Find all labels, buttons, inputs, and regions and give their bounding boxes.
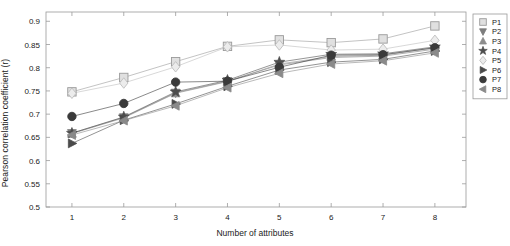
marker-circle [480, 76, 487, 83]
legend-label: P8 [492, 85, 501, 94]
marker-square [379, 35, 387, 43]
legend: P1P2P3P4P5P6P7P8 [473, 14, 507, 99]
y-tick-label: 0.7 [29, 110, 41, 119]
x-tick-label: 1 [70, 213, 75, 222]
y-tick-label: 0.55 [24, 180, 40, 189]
marker-circle [68, 112, 76, 120]
marker-square [480, 19, 487, 26]
marker-circle [120, 99, 128, 107]
y-tick-label: 0.6 [29, 157, 41, 166]
y-tick-label: 0.8 [29, 64, 41, 73]
x-axis-label: Number of attributes [45, 228, 465, 238]
plot-area: 0.50.550.60.650.70.750.80.850.912345678P… [0, 0, 510, 246]
x-tick-label: 2 [122, 213, 127, 222]
y-tick-label: 0.5 [29, 203, 41, 212]
legend-label: P6 [492, 66, 501, 75]
chart-figure: Pearson correlation coefficient (r) Numb… [0, 0, 510, 246]
x-tick-label: 5 [277, 213, 282, 222]
y-tick-label: 0.85 [24, 41, 40, 50]
x-tick-label: 8 [433, 213, 438, 222]
x-tick-label: 4 [225, 213, 230, 222]
legend-label: P3 [492, 37, 501, 46]
legend-label: P2 [492, 27, 501, 36]
legend-label: P5 [492, 56, 501, 65]
legend-box [473, 14, 507, 99]
legend-label: P4 [492, 47, 501, 56]
x-tick-label: 7 [381, 213, 386, 222]
legend-label: P7 [492, 75, 501, 84]
y-tick-label: 0.9 [29, 17, 41, 26]
marker-circle [171, 78, 179, 86]
plot-frame [46, 12, 466, 207]
x-tick-label: 6 [329, 213, 334, 222]
x-tick-label: 3 [173, 213, 178, 222]
legend-label: P1 [492, 18, 501, 27]
marker-square [431, 22, 439, 30]
y-tick-label: 0.65 [24, 133, 40, 142]
y-tick-label: 0.75 [24, 87, 40, 96]
marker-circle [327, 51, 335, 59]
